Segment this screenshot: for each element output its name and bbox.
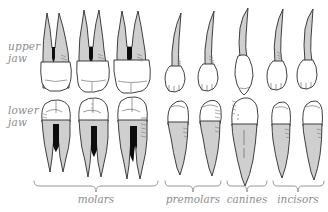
tooth-lower-molar-1 (42, 100, 71, 172)
tooth-lower-incisor-1 (272, 102, 291, 178)
tooth-upper-incisor-2 (297, 9, 317, 89)
tooth-upper-premolar-1 (165, 13, 185, 92)
tooth-lower-molar-2 (79, 98, 109, 177)
brace-molars (34, 181, 158, 192)
group-label-canines: canines (227, 193, 268, 205)
row-label-lower-jaw: lower jaw (8, 105, 39, 128)
tooth-anatomy-figure: .out { fill:none; stroke:#2b2b2b; stroke… (0, 0, 328, 212)
tooth-diagram-canvas: .out { fill:none; stroke:#2b2b2b; stroke… (0, 0, 328, 212)
group-label-molars: molars (78, 193, 114, 205)
tooth-upper-premolar-2 (198, 11, 218, 91)
tooth-upper-molar-2 (77, 10, 110, 92)
tooth-lower-canine-1 (232, 98, 258, 186)
brace-incisors (273, 181, 324, 192)
group-label-premolars: premolars (166, 193, 220, 205)
row-label-upper-jaw: upper jaw (8, 41, 40, 64)
tooth-upper-molar-1 (41, 13, 72, 91)
tooth-lower-incisor-2 (303, 101, 323, 180)
tooth-lower-premolar-1 (168, 101, 189, 175)
tooth-lower-molar-3 (118, 97, 148, 179)
tooth-upper-incisor-1 (267, 9, 287, 90)
brace-premolars (165, 181, 221, 192)
tooth-lower-premolar-2 (200, 100, 222, 176)
tooth-upper-molar-3 (114, 11, 151, 93)
group-label-incisors: incisors (277, 193, 318, 205)
tooth-upper-canine-1 (235, 8, 253, 95)
